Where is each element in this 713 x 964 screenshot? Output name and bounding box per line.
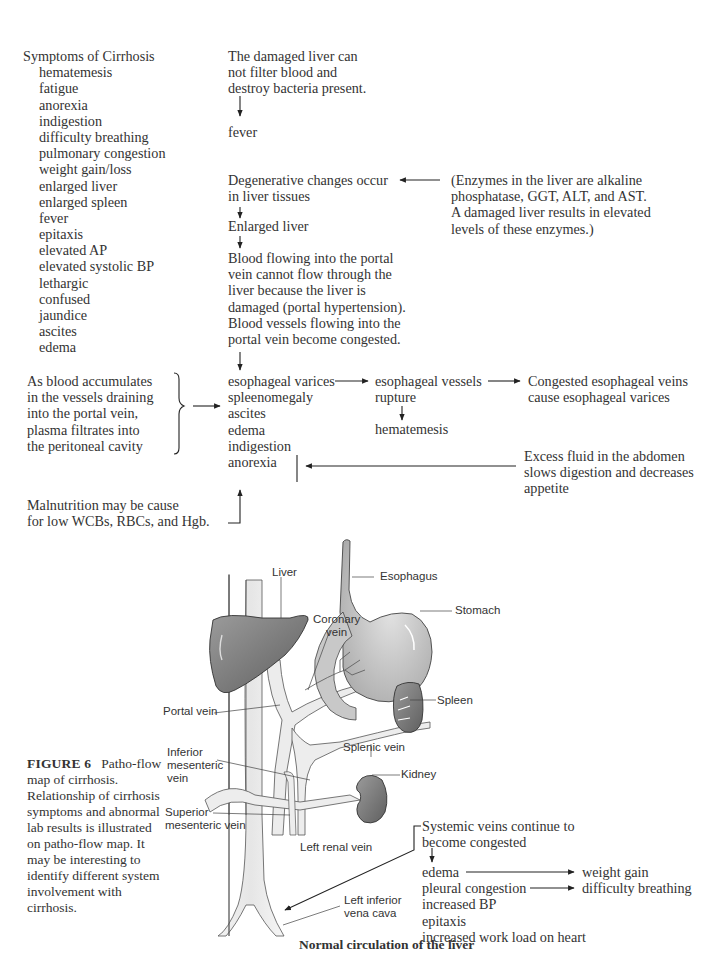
- label-superior-mesenteric-vein: Superior mesenteric vein: [165, 806, 246, 832]
- label-spleen: Spleen: [437, 694, 473, 707]
- line: vein: [167, 772, 223, 785]
- bracket: [174, 373, 184, 454]
- label-liver: Liver: [272, 566, 297, 579]
- illustration-title: Normal circulation of the liver: [299, 937, 474, 953]
- label-esophagus: Esophagus: [380, 570, 438, 583]
- figure-caption: FIGURE 6 Patho-flow map of cirrhosis. Re…: [27, 756, 167, 916]
- line: Coronary: [313, 613, 360, 626]
- label-left-inferior-vena-cava: Left inferior vena cava: [344, 894, 402, 920]
- label-splenic-vein: Splenic vein: [343, 741, 405, 754]
- line: mesenteric vein: [165, 819, 246, 832]
- spleen: [393, 682, 423, 732]
- figure-label: FIGURE 6: [27, 756, 91, 771]
- label-stomach: Stomach: [455, 604, 500, 617]
- line: Left inferior: [344, 894, 402, 907]
- label-kidney: Kidney: [401, 768, 436, 781]
- figure-caption-text: Patho-flow map of cirrhosis. Relationshi…: [27, 756, 161, 915]
- label-left-renal-vein: Left renal vein: [300, 841, 372, 854]
- label-inferior-mesenteric-vein: Inferior mesenteric vein: [167, 746, 223, 785]
- label-portal-vein: Portal vein: [163, 705, 217, 718]
- arrow-up: [228, 490, 240, 523]
- line: vein: [313, 626, 360, 639]
- line: Inferior: [167, 746, 223, 759]
- line: Superior: [165, 806, 246, 819]
- label-coronary-vein: Coronary vein: [313, 613, 360, 639]
- line: mesenteric: [167, 759, 223, 772]
- kidney: [356, 775, 386, 822]
- line: vena cava: [344, 907, 402, 920]
